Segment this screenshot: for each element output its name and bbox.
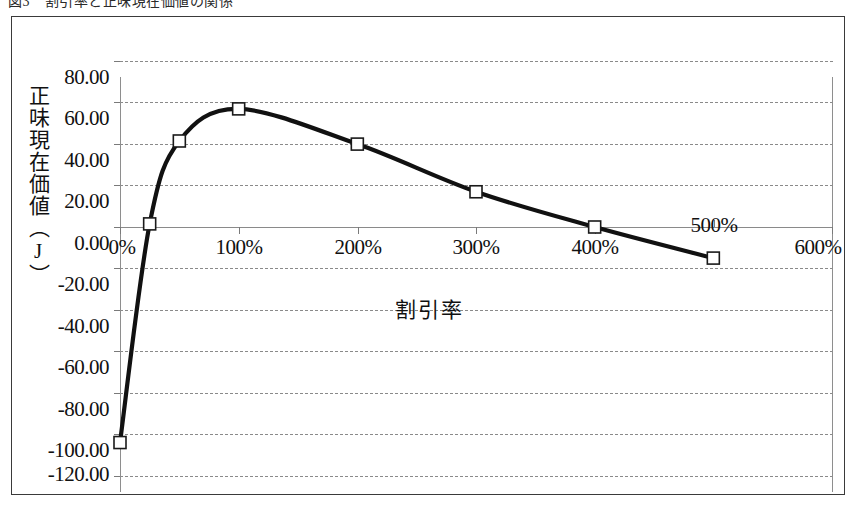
y-tick-label: 40.00 — [64, 148, 109, 173]
gridline-neg20 — [120, 268, 833, 269]
data-point-marker — [144, 218, 156, 230]
y-tick-label: 0.00 — [74, 231, 109, 256]
y-tick-label: 80.00 — [64, 65, 109, 90]
y-tick-label: -100.00 — [48, 438, 109, 463]
x-tick-label: 400% — [572, 235, 619, 260]
gridline-20 — [120, 185, 833, 186]
figure-page: 図3 割引率と正味現在価値の関係 正味現在価値（J） 80.00 60.00 4… — [0, 0, 857, 514]
y-tick-label: 60.00 — [64, 106, 109, 131]
x-tick-mark — [595, 227, 596, 234]
x-tick-mark — [120, 227, 121, 234]
series-markers — [114, 103, 719, 449]
x-tick-label: 600% — [795, 235, 842, 260]
figure-frame: 正味現在価値（J） 80.00 60.00 40.00 20.00 0.00 -… — [11, 16, 845, 495]
y-tick-label: -80.00 — [58, 397, 109, 422]
plot-left-spine — [120, 77, 121, 492]
plot-right-spine — [832, 77, 833, 492]
figure-caption: 図3 割引率と正味現在価値の関係 — [8, 0, 233, 10]
data-point-marker — [233, 103, 245, 115]
y-tick-label: -60.00 — [58, 355, 109, 380]
data-point-marker — [470, 186, 482, 198]
x-tick-label: 200% — [335, 235, 382, 260]
data-point-marker — [173, 135, 185, 147]
gridline-neg120 — [120, 476, 833, 477]
x-tick-label: 500% — [691, 213, 738, 238]
data-point-marker — [707, 252, 719, 264]
y-tick-label: -120.00 — [48, 462, 109, 487]
x-tick-label: 100% — [216, 235, 263, 260]
x-tick-mark — [239, 227, 240, 234]
gridline-neg60 — [120, 351, 833, 352]
gridline-neg80 — [120, 393, 833, 394]
x-tick-label: 0% — [109, 235, 136, 260]
x-tick-mark — [358, 227, 359, 234]
gridline-80 — [120, 61, 833, 62]
gridline-neg100 — [120, 434, 833, 435]
gridline-40 — [120, 144, 833, 145]
x-tick-mark — [832, 227, 833, 234]
x-axis-title: 割引率 — [12, 293, 846, 323]
y-tick-label: 20.00 — [64, 189, 109, 214]
gridline-60 — [120, 102, 833, 103]
figure-caption-strip: 図3 割引率と正味現在価値の関係 — [0, 0, 857, 11]
x-tick-label: 300% — [453, 235, 500, 260]
x-tick-mark — [476, 227, 477, 234]
chart-plot — [12, 17, 846, 496]
y-axis-tick-labels: 80.00 60.00 40.00 20.00 0.00 -20.00 -40.… — [12, 17, 109, 496]
